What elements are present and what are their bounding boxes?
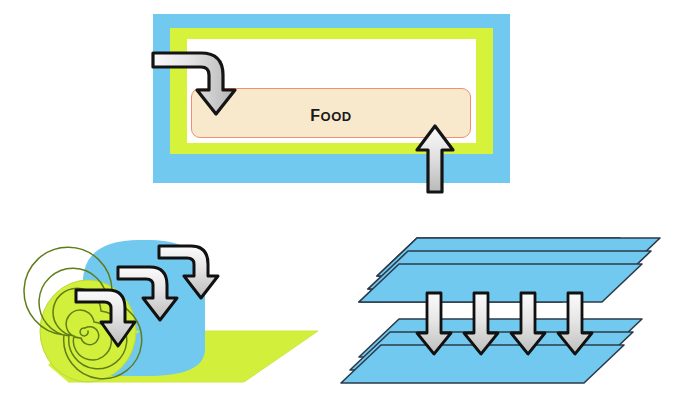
- figure-canvas: Food: [0, 0, 677, 396]
- top-sheet-stack-extension: [359, 238, 660, 302]
- outlet-arrow-icon: [417, 126, 453, 192]
- stacked-sheets-panel: [330, 232, 650, 392]
- sheet-top-1-ext: [359, 264, 642, 302]
- stack-illustration: [330, 232, 660, 396]
- roll-illustration: [28, 236, 318, 388]
- inlet-arrow-icon: [153, 53, 235, 114]
- package-cross-section-panel: Food: [153, 14, 510, 183]
- bottom-sheet-stack: [341, 319, 642, 383]
- cross-section-arrows: [143, 12, 500, 202]
- rolled-film-panel: [28, 236, 318, 388]
